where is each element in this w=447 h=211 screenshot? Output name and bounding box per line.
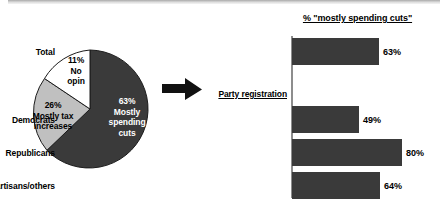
bar-label-republicans: Republicans <box>6 139 55 166</box>
bar-group-header-party-registration: Party registration <box>218 89 287 99</box>
bar-chart-title: % "mostly spending cuts" <box>270 13 445 23</box>
pie-label-mostly-spending-cuts-text: 63% Mostly spending cuts <box>109 96 146 138</box>
bar-value-republicans: 80% <box>406 139 424 166</box>
bar-value-democrats: 49% <box>363 106 381 133</box>
pie-label-no-opinion-text: 11% No opin <box>67 55 85 86</box>
scan-artifact-strip <box>8 0 440 4</box>
pie-label-mostly-spending-cuts: 63% Mostly spending cuts <box>96 96 158 138</box>
bar-chart: % "mostly spending cuts" Total 63% Party… <box>215 8 447 204</box>
bar-rect-non-partisans-others <box>292 172 380 199</box>
bar-value-total: 63% <box>383 38 401 65</box>
right-arrow-icon <box>161 76 203 102</box>
bar-label-non-partisans-others: Non-partisans/others <box>0 172 55 199</box>
bar-label-democrats: Democrats <box>12 106 55 133</box>
bar-value-non-partisans-others: 64% <box>384 172 402 199</box>
figure-canvas: 63% Mostly spending cuts 26% Mostly tax … <box>0 0 447 211</box>
bar-rect-total <box>292 38 379 65</box>
bar-label-total: Total <box>36 38 55 65</box>
bar-rect-democrats <box>292 106 359 133</box>
pie-label-no-opinion: 11% No opin <box>56 55 96 87</box>
bar-rect-republicans <box>292 139 402 166</box>
